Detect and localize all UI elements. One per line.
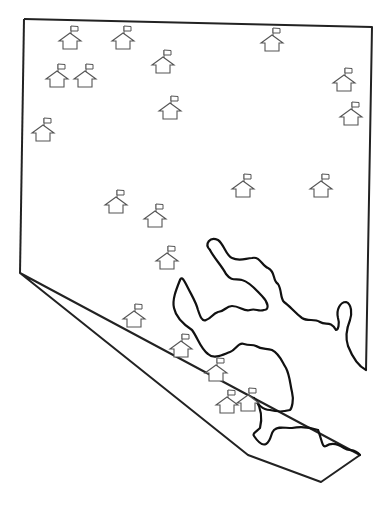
county-boundary-west	[20, 19, 24, 273]
shoreline-north-inlet-south	[180, 250, 268, 320]
schoolhouse-with-flag-icon[interactable]	[142, 203, 168, 229]
schoolhouse-with-flag-icon[interactable]	[235, 387, 261, 413]
schoolhouse-with-flag-icon[interactable]	[121, 303, 147, 329]
schoolhouse-with-flag-icon[interactable]	[168, 333, 194, 359]
shoreline-south	[253, 400, 360, 455]
schoolhouse-with-flag-icon[interactable]	[110, 25, 136, 51]
schoolhouse-with-flag-icon[interactable]	[72, 63, 98, 89]
schoolhouse-with-flag-icon[interactable]	[230, 173, 256, 199]
schoolhouse-with-flag-icon[interactable]	[203, 357, 229, 383]
schoolhouse-with-flag-icon[interactable]	[154, 245, 180, 271]
schoolhouse-with-flag-icon[interactable]	[157, 95, 183, 121]
schoolhouse-with-flag-icon[interactable]	[30, 117, 56, 143]
schoolhouse-with-flag-icon[interactable]	[57, 25, 83, 51]
schoolhouse-with-flag-icon[interactable]	[308, 173, 334, 199]
schoolhouse-with-flag-icon[interactable]	[331, 67, 357, 93]
schoolhouse-with-flag-icon[interactable]	[150, 49, 176, 75]
schoolhouse-with-flag-icon[interactable]	[338, 101, 364, 127]
schoolhouse-with-flag-icon[interactable]	[44, 63, 70, 89]
schoolhouse-with-flag-icon[interactable]	[103, 189, 129, 215]
schoolhouse-with-flag-icon[interactable]	[259, 27, 285, 53]
